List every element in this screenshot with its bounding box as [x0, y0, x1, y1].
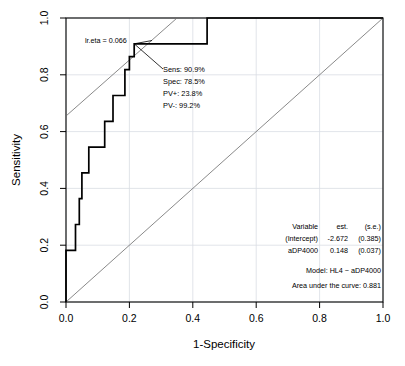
threshold-label: lr.eta = 0.066 [85, 36, 127, 45]
x-tick-label: 0.8 [312, 312, 327, 324]
coef-row-variable: (Intercept) [285, 234, 318, 243]
y-tick-label: 0.2 [38, 238, 50, 253]
coef-row-variable: aDP4000 [288, 246, 318, 255]
metric-npv: PV-: 99.2% [163, 101, 200, 110]
coef-row-se: (0.385) [358, 234, 381, 243]
y-axis-title: Sensitivity [10, 134, 22, 186]
metric-ppv: PV+: 23.8% [163, 89, 203, 98]
y-tick-label: 0.4 [38, 181, 50, 196]
roc-plot-svg: lr.eta = 0.066 Sens: 90.9% Spec: 78.5% P… [0, 0, 405, 366]
coef-row-est: -2.672 [328, 234, 348, 243]
x-tick-label: 0.6 [249, 312, 264, 324]
x-tick-label: 0.0 [59, 312, 74, 324]
y-tick-label: 0.6 [38, 124, 50, 139]
y-tick-label: 0.8 [38, 67, 50, 82]
roc-plot-figure: lr.eta = 0.066 Sens: 90.9% Spec: 78.5% P… [0, 0, 405, 366]
x-tick-label: 1.0 [376, 312, 391, 324]
y-tick-label: 1.0 [38, 11, 50, 26]
x-tick-label: 0.2 [122, 312, 137, 324]
y-tick-label: 0.0 [38, 295, 50, 310]
model-formula-label: Model: HL4 ~ aDP4000 [306, 266, 381, 275]
x-axis-title: 1-Specificity [193, 338, 255, 350]
coef-header-variable: Variable [292, 222, 318, 231]
coef-header-est: est. [336, 222, 348, 231]
coef-row-se: (0.037) [358, 246, 381, 255]
metric-sens: Sens: 90.9% [163, 65, 205, 74]
metric-spec: Spec: 78.5% [163, 77, 205, 86]
coef-header-se: (s.e.) [365, 222, 381, 231]
x-tick-label: 0.4 [185, 312, 200, 324]
coef-row-est: 0.148 [330, 246, 348, 255]
auc-label: Area under the curve: 0.881 [292, 281, 381, 290]
